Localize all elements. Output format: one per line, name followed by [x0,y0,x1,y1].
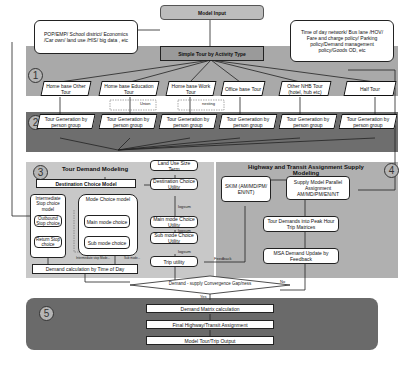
peak-hour-matrices-box: Tour Demands into Peak Hour Trip Matrice… [263,216,339,232]
model-input-box: Model Input [160,5,264,20]
trip-utility: Trip utility [150,256,198,267]
stage-number-5: 5 [39,306,54,321]
main-mode-choice-utility: Main mode Choice Utility [150,216,198,228]
main-mode-choice: Main mode choice [84,215,130,228]
dotted-note-right: Sub mode... [124,256,140,260]
dotted-note-left: Intermediate stop Mode... [76,256,110,260]
tour-type-home-other: Home base Other Tour [40,81,91,96]
demand-matrix-calculation: Demand Matrix calculation [146,304,274,313]
simple-tour-box: Simple Tour by Activity Type [160,46,264,61]
yes-label: Yes [200,294,207,299]
tour-demand-title: Tour Demand Modeling [50,166,140,172]
union-label: Union [140,101,150,106]
tour-generation-4: Tour Generation by person group [218,114,277,129]
feedback-label: Feedback [214,256,232,261]
tour-type-home-education: Home base Education Tour [98,81,159,96]
tour-type-office: Office base Tour [220,81,265,96]
demand-by-time-of-day: Demand calculation by Time of Day [32,264,138,274]
destination-choice-utility: Destination Choice Utility [150,178,198,190]
right-input-note: Time of day network/ Bus lane /HOV/ Fare… [290,20,394,62]
stage-number-4: 4 [384,163,399,178]
tour-generation-3: Tour Generation by person group [158,114,217,129]
tour-type-home-work: Home base Work Tour [165,81,216,96]
logsum-label-1: logsum [178,204,191,209]
sub-mode-choice: Sub mode choice [84,236,130,249]
logsum-label-2: logsum [178,228,191,233]
stage-number-3: 3 [33,165,48,180]
outbound-stop-box: Outbound Stop choice [34,215,62,227]
intermediate-stop-label: Intermediate Stop choice model [32,196,64,212]
left-input-note: POP/EMP/ School district/ Economics /Car… [34,20,138,54]
nesting-label: nesting [202,101,215,106]
msa-update-box: MSA Demand Update by Feedback [263,248,339,264]
assignment-title: Highway and Transit Assignment Supply Mo… [236,164,376,176]
tour-type-other-nhb: Other NHB Tour (hotel, hub etc) [278,81,331,96]
tour-generation-1: Tour Generation by person group [36,114,95,129]
logsum-label-3: logsum [178,249,191,254]
destination-choice-model: Destination Choice Model [36,179,136,188]
sub-mode-choice-utility: Sub mode Choice Utility [150,232,198,244]
tour-type-half: Half Tour [343,81,396,96]
parallel-assignment-box: Supply Model Parallel Assignment AM/MD/P… [286,176,350,200]
convergence-label: Demand - supply Convergence Gap/ness [160,281,260,286]
stage-number-1: 1 [28,68,43,83]
tour-generation-6: Tour Generation by person group [338,114,397,129]
model-output: Model Tour/Trip Output [146,336,274,345]
return-stop-box: Return Stop choice [34,236,62,248]
mode-choice-label: Mode Choice model [86,196,130,202]
tour-generation-2: Tour Generation by person group [98,114,157,129]
final-assignment: Final Highway/Transit Assignment [146,320,274,329]
tour-generation-5: Tour Generation by person group [278,114,337,129]
skim-box: SKIM (AM/MD/PM/ EN/NT) [221,176,271,202]
land-use-size-term: Land Use Size Term [150,160,198,171]
no-label: No [280,279,285,284]
